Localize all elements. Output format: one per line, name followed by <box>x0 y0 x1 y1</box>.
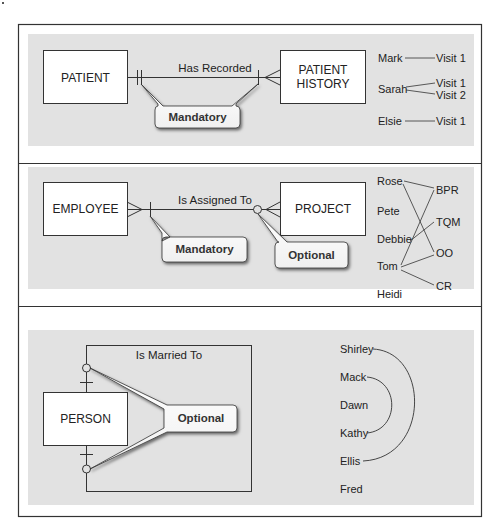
instance-person: Shirley <box>340 343 374 355</box>
instance-name: Elsie <box>378 115 402 127</box>
instance-employee: Rose <box>377 175 403 187</box>
entity-patient-history-label-line2: HISTORY <box>297 77 350 91</box>
instance-person: Mack <box>340 371 367 383</box>
relationship-label: Is Married To <box>136 349 202 361</box>
instance-employee: Tom <box>377 260 398 272</box>
relationship-label: Is Assigned To <box>178 194 252 206</box>
instance-employee: Pete <box>377 205 400 217</box>
cardinality-optional-circle-icon <box>83 364 91 372</box>
section-person-married: Is Married To PERSON Optional Shirley Ma… <box>28 330 474 505</box>
entity-employee-label: EMPLOYEE <box>52 202 118 216</box>
instance-person: Fred <box>340 483 363 495</box>
instance-project: BPR <box>436 184 459 196</box>
instance-visit: Visit 1 <box>436 52 466 64</box>
instance-visit: Visit 1 <box>436 77 466 89</box>
callout-optional-label: Optional <box>288 249 335 261</box>
entity-patient-label: PATIENT <box>61 71 111 85</box>
instance-person: Dawn <box>340 399 368 411</box>
instance-project: CR <box>436 280 452 292</box>
callout-mandatory-label: Mandatory <box>168 111 227 123</box>
instance-project: OO <box>436 247 454 259</box>
callout-mandatory-label: Mandatory <box>175 243 234 255</box>
instance-name: Mark <box>378 52 403 64</box>
entity-project-label: PROJECT <box>295 202 352 216</box>
callout-optional-label: Optional <box>178 412 225 424</box>
instance-visit: Visit 1 <box>436 115 466 127</box>
entity-patient-history-label-line1: PATIENT <box>299 63 349 77</box>
section-employee-project: EMPLOYEE PROJECT Is Assigned To Mandator… <box>28 167 474 300</box>
erd-cardinality-figure: PATIENT PATIENT HISTORY Has Recorded Man… <box>0 0 501 531</box>
cardinality-optional-circle-icon <box>254 206 262 214</box>
instance-project: TQM <box>436 216 460 228</box>
section-patient-history: PATIENT PATIENT HISTORY Has Recorded Man… <box>28 34 474 146</box>
instance-visit: Visit 2 <box>436 89 466 101</box>
entity-person-label: PERSON <box>60 412 111 426</box>
cardinality-optional-circle-icon <box>83 465 91 473</box>
instance-employee: Debbie <box>377 233 412 245</box>
instance-employee: Heidi <box>377 288 402 300</box>
instance-person: Ellis <box>340 455 361 467</box>
relationship-label: Has Recorded <box>178 62 252 74</box>
instance-name: Sarah <box>378 83 407 95</box>
instance-person: Kathy <box>340 427 369 439</box>
